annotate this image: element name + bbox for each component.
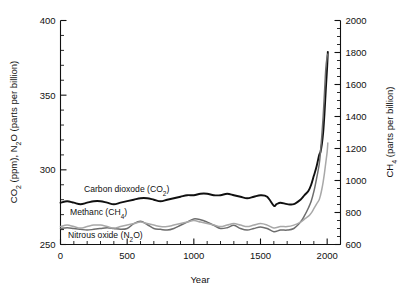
x-axis-title: Year bbox=[190, 274, 209, 285]
chart-canvas: 250300350400 600800100012001400160018002… bbox=[0, 0, 410, 292]
right-tick-label: 1400 bbox=[346, 111, 367, 122]
right-tick-label: 800 bbox=[346, 207, 362, 218]
y-left-title-part-a: CO bbox=[8, 189, 19, 203]
x-tick-label: 0 bbox=[58, 250, 63, 261]
co2-label-part-a: Carbon dioxode (CO bbox=[84, 184, 163, 194]
left-tick-label: 300 bbox=[40, 164, 56, 175]
ch4-label-part-b: ) bbox=[124, 207, 127, 217]
co2-label-part-b: ) bbox=[166, 184, 169, 194]
y-left-title-part-c: O (parts per billion) bbox=[8, 61, 19, 142]
right-tick-label: 1600 bbox=[346, 79, 367, 90]
left-tick-label: 250 bbox=[40, 239, 56, 250]
ch4-label-part-a: Methanc (CH bbox=[70, 207, 121, 217]
x-tick-label: 1500 bbox=[250, 250, 271, 261]
x-tick-label: 2000 bbox=[317, 250, 338, 261]
left-tick-label: 400 bbox=[40, 15, 56, 26]
y-right-title-part-a: CH bbox=[384, 164, 395, 178]
right-tick-label: 1000 bbox=[346, 175, 367, 186]
n2o-label-part-a: Nitrous oxide (N bbox=[68, 230, 130, 240]
greenhouse-gas-concentration-chart: 250300350400 600800100012001400160018002… bbox=[0, 0, 410, 292]
left-tick-label: 350 bbox=[40, 90, 56, 101]
y-right-title-part-b: (parts per billion) bbox=[384, 86, 395, 159]
right-tick-label: 1800 bbox=[346, 47, 367, 58]
right-tick-label: 600 bbox=[346, 239, 362, 250]
y-left-title-part-b: (ppm), N bbox=[8, 145, 19, 185]
right-tick-label: 1200 bbox=[346, 143, 367, 154]
x-tick-label: 1000 bbox=[183, 250, 204, 261]
x-tick-label: 500 bbox=[119, 250, 135, 261]
right-tick-label: 2000 bbox=[346, 15, 367, 26]
n2o-label-part-b: O) bbox=[133, 230, 143, 240]
